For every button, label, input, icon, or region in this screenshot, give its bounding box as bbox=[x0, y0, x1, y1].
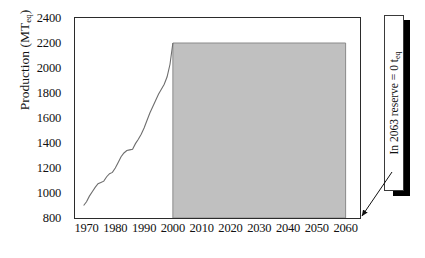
reserve-depletion-callout: In 2063 reserve = 0 teq bbox=[384, 15, 404, 191]
x-tick-label: 2010 bbox=[190, 222, 214, 235]
x-tick-label: 2030 bbox=[247, 222, 271, 235]
callout-text-subscript: eq bbox=[393, 51, 402, 59]
callout-arrow bbox=[330, 170, 410, 230]
y-axis-title: Production (MTeq) bbox=[17, 0, 33, 145]
y-axis-title-close: ) bbox=[17, 10, 32, 15]
y-axis-title-main: Production (MT bbox=[17, 23, 32, 110]
historical-production-line bbox=[84, 43, 173, 206]
callout-text: In 2063 reserve = 0 teq bbox=[388, 15, 402, 191]
callout-text-main: In 2063 reserve = 0 t bbox=[388, 59, 400, 155]
x-tick-label: 1970 bbox=[74, 222, 98, 235]
x-tick-label: 2040 bbox=[276, 222, 300, 235]
y-tick-label: 1200 bbox=[37, 162, 61, 175]
y-tick-label: 1000 bbox=[37, 187, 61, 200]
series-layer bbox=[75, 18, 360, 218]
x-tick-label: 2000 bbox=[161, 222, 185, 235]
y-axis-title-subscript: eq bbox=[23, 14, 33, 23]
projected-plateau-area bbox=[173, 43, 346, 218]
y-tick-label: 1600 bbox=[37, 112, 61, 125]
y-tick-label: 2000 bbox=[37, 62, 61, 75]
plot-frame bbox=[74, 17, 361, 219]
x-tick-label: 2050 bbox=[305, 222, 329, 235]
x-tick-label: 2020 bbox=[218, 222, 242, 235]
x-tick-label: 1990 bbox=[132, 222, 156, 235]
x-tick-label: 1980 bbox=[103, 222, 127, 235]
y-tick-label: 2400 bbox=[37, 12, 61, 25]
y-tick-label: 1400 bbox=[37, 137, 61, 150]
y-tick-label: 800 bbox=[43, 212, 61, 225]
y-tick-label: 1800 bbox=[37, 87, 61, 100]
chart-figure: Production (MTeq) 8001000120014001600180… bbox=[0, 0, 425, 258]
plot-area bbox=[75, 18, 360, 218]
y-tick-label: 2200 bbox=[37, 37, 61, 50]
